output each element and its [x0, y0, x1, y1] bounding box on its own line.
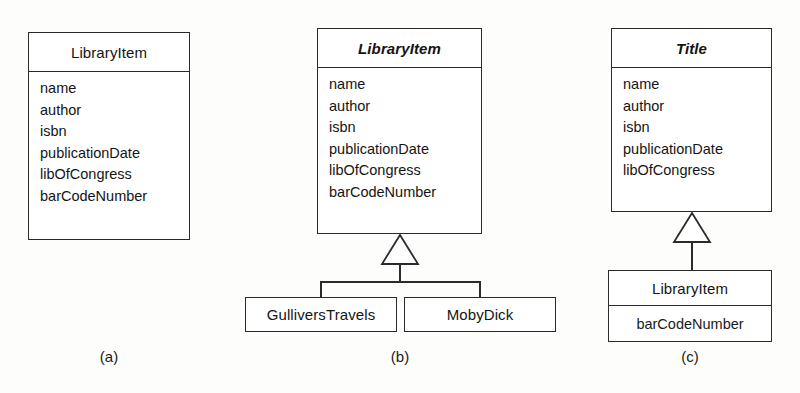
attribute-isbn: isbn	[40, 121, 189, 143]
attribute-author: author	[40, 100, 189, 122]
class-box-b-mobydick[interactable]: MobyDick	[404, 297, 556, 332]
class-box-a-libraryitem[interactable]: LibraryItem name author isbn publication…	[28, 32, 190, 240]
generalization-triangle-b	[380, 234, 420, 266]
attribute-name: name	[329, 74, 481, 96]
class-name-a-libraryitem: LibraryItem	[29, 33, 189, 72]
class-box-b-libraryitem[interactable]: LibraryItem name author isbn publication…	[317, 28, 482, 234]
attribute-barcodenumber: barCodeNumber	[329, 182, 481, 204]
attribute-barcodenumber: barCodeNumber	[609, 306, 771, 341]
class-box-c-title[interactable]: Title name author isbn publicationDate l…	[611, 28, 772, 212]
class-name-b-gulliverstravels: GulliversTravels	[246, 298, 396, 331]
attribute-barcodenumber: barCodeNumber	[40, 186, 189, 208]
attribute-libofcongress: libOfCongress	[329, 160, 481, 182]
uml-class-diagram-figure: LibraryItem name author isbn publication…	[0, 0, 800, 393]
attribute-compartment-b: name author isbn publicationDate libOfCo…	[318, 68, 481, 207]
class-name-b-libraryitem: LibraryItem	[318, 29, 481, 68]
class-name-c-libraryitem: LibraryItem	[609, 271, 771, 306]
attribute-compartment-a: name author isbn publicationDate libOfCo…	[29, 72, 189, 211]
attribute-compartment-c: name author isbn publicationDate libOfCo…	[612, 68, 771, 186]
attribute-publicationdate: publicationDate	[40, 143, 189, 165]
attribute-publicationdate: publicationDate	[329, 139, 481, 161]
panel-caption-a: (a)	[79, 348, 139, 365]
generalization-drop-b-left	[320, 281, 322, 298]
generalization-drop-b-right	[479, 281, 481, 298]
panel-caption-b: (b)	[370, 348, 430, 365]
generalization-bus-b	[320, 281, 480, 283]
attribute-publicationdate: publicationDate	[623, 139, 771, 161]
class-name-b-mobydick: MobyDick	[405, 298, 555, 331]
attribute-isbn: isbn	[329, 117, 481, 139]
class-box-c-libraryitem[interactable]: LibraryItem barCodeNumber	[608, 270, 772, 342]
attribute-author: author	[623, 96, 771, 118]
attribute-isbn: isbn	[623, 117, 771, 139]
attribute-libofcongress: libOfCongress	[623, 160, 771, 182]
attribute-name: name	[623, 74, 771, 96]
panel-caption-c: (c)	[660, 348, 720, 365]
class-name-c-title: Title	[612, 29, 771, 68]
generalization-triangle-c	[672, 212, 712, 244]
generalization-stem-c	[691, 241, 693, 270]
attribute-name: name	[40, 78, 189, 100]
class-box-b-gulliverstravels[interactable]: GulliversTravels	[245, 297, 397, 332]
attribute-libofcongress: libOfCongress	[40, 164, 189, 186]
attribute-author: author	[329, 96, 481, 118]
generalization-stem-b	[399, 263, 401, 282]
